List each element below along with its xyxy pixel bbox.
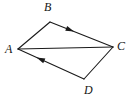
edge-CD — [84, 47, 113, 79]
arrowhead-DA-icon — [37, 57, 46, 63]
vertex-label-C: C — [117, 40, 125, 52]
arrowhead-BC-icon — [65, 26, 74, 32]
quadrilateral-diagram-svg — [0, 0, 135, 106]
vertex-label-B: B — [44, 1, 51, 13]
vertex-label-A: A — [5, 43, 12, 55]
edge-BC — [50, 22, 113, 47]
diagonal-AC — [18, 47, 113, 49]
vertex-label-D: D — [84, 84, 93, 96]
edge-DA — [18, 49, 84, 79]
figure-canvas: A B C D — [0, 0, 135, 106]
edge-AB — [18, 22, 50, 49]
